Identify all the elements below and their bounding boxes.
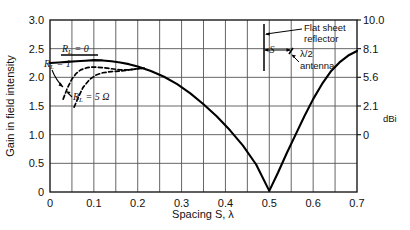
- curve-label-rl0-rest: = 0: [72, 43, 89, 54]
- x-tick-label-7: 0.7: [349, 197, 364, 209]
- x-tick-label-5: 0.5: [262, 197, 277, 209]
- x-tick-label-1: 0.1: [86, 197, 101, 209]
- y-tick-label-0: 0: [38, 186, 44, 198]
- y-tick-label-4: 2.0: [29, 71, 44, 83]
- curve-label-rl5-rest: = 5 Ω: [83, 91, 109, 102]
- gain-vs-spacing-chart: 00.10.20.30.40.50.60.7 00.51.01.52.02.53…: [0, 0, 410, 230]
- y-tick-label-6: 3.0: [29, 14, 44, 26]
- secondary-axis-unit-label: dBi: [383, 113, 397, 124]
- figure-container: 00.10.20.30.40.50.60.7 00.51.01.52.02.53…: [0, 0, 410, 230]
- secondary-tick-label-3: 8.1: [363, 43, 378, 55]
- x-tick-label-6: 0.6: [305, 197, 320, 209]
- y-tick-label-2: 1.0: [29, 129, 44, 141]
- x-tick-label-0: 0: [47, 197, 53, 209]
- curve-label-rl5-main: R: [72, 91, 79, 102]
- x-axis-title: Spacing S, λ: [172, 208, 234, 220]
- y-tick-label-3: 1.5: [29, 100, 44, 112]
- secondary-tick-label-0: 0: [363, 129, 369, 141]
- x-tick-label-2: 0.2: [130, 197, 145, 209]
- y-tick-label-1: 0.5: [29, 157, 44, 169]
- antenna-label-line1: λ/2: [300, 48, 313, 59]
- curve-label-rl0-main: R: [61, 43, 68, 54]
- curve-label-rl1-rest: = 1: [54, 58, 71, 69]
- y-tick-label-5: 2.5: [29, 43, 44, 55]
- secondary-tick-label-2: 5.6: [363, 71, 378, 83]
- antenna-label-line2: antenna: [300, 60, 335, 71]
- secondary-tick-label-1: 2.1: [363, 100, 378, 112]
- secondary-tick-label-4: 10.0: [363, 14, 384, 26]
- y-axis-title: Gain in field intensity: [4, 55, 16, 157]
- curve-label-rl1-main: R: [43, 58, 50, 69]
- chart-background: [0, 0, 410, 230]
- reflector-label-line2: reflector: [304, 33, 338, 44]
- reflector-label-line1: Flat sheet: [304, 22, 346, 33]
- spacing-symbol-label: S: [270, 44, 275, 55]
